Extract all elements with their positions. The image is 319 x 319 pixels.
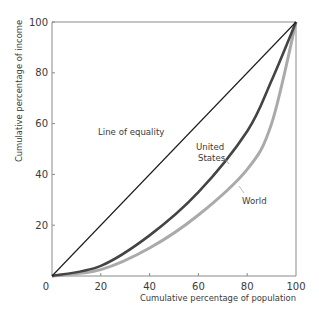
- y-ticks: 20406080100: [29, 17, 55, 231]
- y-tick-label: 80: [35, 67, 48, 78]
- x-tick-label: 0: [43, 281, 49, 292]
- x-tick-label: 20: [94, 281, 107, 292]
- world-label: World: [242, 196, 267, 206]
- x-tick-label: 100: [286, 281, 305, 292]
- equality-label: Line of equality: [98, 127, 164, 137]
- y-tick-label: 100: [29, 17, 48, 28]
- x-tick-label: 40: [143, 281, 156, 292]
- x-tick-label: 80: [241, 281, 254, 292]
- line-of-equality: [52, 22, 296, 276]
- world-label-leader: [239, 186, 244, 193]
- us-label-line1: United: [196, 142, 224, 152]
- y-axis-title: Cumulative percentage of income: [14, 20, 24, 162]
- y-tick-label: 60: [35, 118, 48, 129]
- lorenz-curve-chart: 20406080100 020406080100 Line of equalit…: [0, 0, 319, 319]
- x-axis-title: Cumulative percentage of population: [140, 293, 296, 303]
- y-tick-label: 40: [35, 169, 48, 180]
- x-tick-label: 60: [192, 281, 205, 292]
- us-label-line2: States: [198, 153, 226, 163]
- y-tick-label: 20: [35, 220, 48, 231]
